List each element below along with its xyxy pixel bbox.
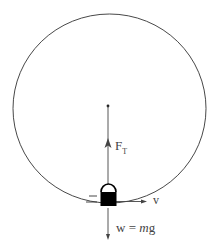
weight-arrowhead [106,234,110,240]
bucket-handle [101,184,116,192]
circular-path [13,14,206,203]
weight-label-w: w [116,220,125,235]
velocity-label: v [153,193,159,208]
velocity-arrowhead [141,200,147,204]
weight-label: w = mg [116,220,155,236]
tension-label-sub: T [122,147,127,156]
tension-label: FT [115,138,127,156]
weight-label-equals: = [129,220,136,235]
weight-label-m: m [139,220,148,235]
circular-motion-diagram [0,0,215,249]
weight-label-g: g [149,220,156,235]
mass-block [101,192,117,206]
